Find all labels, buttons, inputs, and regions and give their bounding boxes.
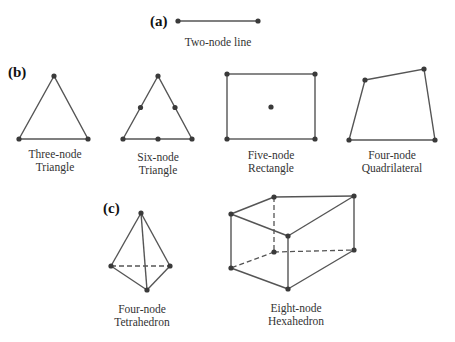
triangle-edges [19, 76, 88, 139]
six-node-triangle-element [120, 73, 194, 141]
node [312, 71, 317, 76]
panel-b: (b) Three-node Triangle Six-node Triangl… [8, 64, 438, 177]
triangle-edges [123, 76, 192, 139]
node [175, 18, 180, 23]
edge [141, 213, 170, 266]
three-node-triangle-element [16, 73, 90, 141]
eight-node-hexahedron-caption-line1: Eight-node [270, 302, 321, 315]
node [285, 286, 290, 291]
four-node-quadrilateral-caption-line2: Quadrilateral [362, 162, 423, 174]
node [362, 77, 367, 82]
quadrilateral-edges [349, 69, 435, 140]
node [224, 136, 229, 141]
node [351, 247, 356, 252]
panel-c: (c) Four-node Tetrahedron [103, 193, 357, 328]
node [271, 249, 276, 254]
node [85, 136, 90, 141]
edge [111, 213, 141, 266]
node [167, 263, 172, 268]
three-node-triangle-caption-line2: Triangle [36, 161, 75, 174]
five-node-rectangle-element [224, 71, 317, 141]
node [155, 136, 160, 141]
four-node-quadrilateral-element [346, 66, 437, 142]
node [228, 211, 233, 216]
five-node-rectangle-caption-line1: Five-node [248, 149, 295, 161]
two-node-line-caption: Two-node line [185, 36, 252, 48]
five-node-rectangle-caption-line2: Rectangle [248, 162, 294, 175]
panel-a: (a) Two-node line [150, 13, 261, 48]
node [172, 105, 177, 110]
node [138, 210, 143, 215]
edge [274, 196, 354, 197]
node [351, 193, 356, 198]
node [120, 136, 125, 141]
edge [288, 196, 354, 236]
four-node-tetrahedron-caption-line1: Four-node [118, 303, 166, 315]
edge [147, 266, 170, 290]
node [138, 105, 143, 110]
node [432, 137, 437, 142]
six-node-triangle-caption-line2: Triangle [139, 164, 178, 177]
finite-element-diagram: (a) Two-node line (b) Three-node Triangl… [0, 0, 455, 342]
node [228, 265, 233, 270]
hidden-edge [231, 252, 274, 268]
panel-a-label: (a) [150, 13, 168, 30]
six-node-triangle-caption-line1: Six-node [137, 151, 179, 163]
node [16, 136, 21, 141]
edge [111, 266, 147, 290]
eight-node-hexahedron-caption-line2: Hexahedron [268, 315, 324, 327]
node [312, 136, 317, 141]
edge [231, 268, 288, 289]
node [285, 233, 290, 238]
two-node-line-element [175, 18, 260, 23]
node [268, 104, 273, 109]
hidden-edge [274, 250, 354, 252]
node [51, 73, 56, 78]
edge [288, 250, 354, 289]
node [255, 18, 260, 23]
edge [141, 213, 147, 290]
three-node-triangle-caption-line1: Three-node [29, 148, 82, 160]
panel-c-label: (c) [103, 200, 120, 217]
edge [231, 214, 288, 236]
panel-b-label: (b) [8, 64, 26, 81]
four-node-tetrahedron-element [108, 210, 172, 292]
eight-node-hexahedron-element [228, 193, 356, 291]
node [346, 137, 351, 142]
edge [231, 197, 274, 214]
node [108, 263, 113, 268]
node [189, 136, 194, 141]
four-node-tetrahedron-caption-line2: Tetrahedron [114, 316, 170, 328]
four-node-quadrilateral-caption-line1: Four-node [368, 149, 416, 161]
node [155, 73, 160, 78]
node [224, 71, 229, 76]
node [421, 66, 426, 71]
node [144, 287, 149, 292]
node [271, 194, 276, 199]
